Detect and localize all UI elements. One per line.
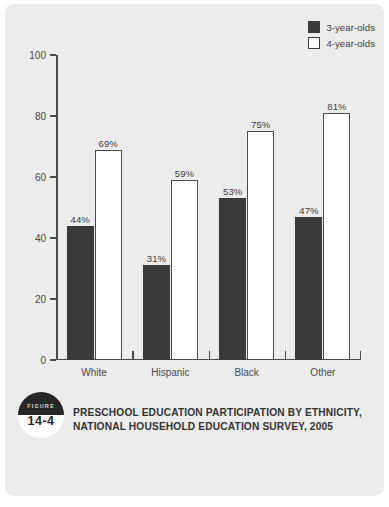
badge-figure-word: FIGURE — [18, 403, 64, 409]
caption-line-1: Preschool Education Participation by Eth… — [73, 406, 362, 420]
x-axis-tick — [209, 351, 211, 360]
caption-line-2: National Household Education Survey, 200… — [73, 420, 362, 434]
x-axis-category-label: White — [81, 367, 107, 378]
y-axis-tick — [50, 54, 56, 56]
figure-number-badge: FIGURE 14-4 — [18, 392, 64, 438]
y-axis-tick-label: 0 — [40, 355, 46, 366]
y-axis-tick — [50, 298, 56, 300]
bar-value-label: 81% — [327, 101, 346, 112]
y-axis-tick — [50, 359, 56, 361]
y-axis-tick-label: 100 — [29, 50, 46, 61]
x-axis-category-label: Hispanic — [151, 367, 189, 378]
bar[interactable]: 69% — [95, 150, 122, 360]
x-axis-tick — [360, 351, 362, 360]
x-axis-tick — [132, 351, 134, 360]
dark-square-icon — [308, 21, 320, 33]
legend-item-4-year-olds: 4-year-olds — [308, 36, 375, 50]
bar[interactable]: 53% — [219, 198, 246, 360]
legend-item-3-year-olds: 3-year-olds — [308, 20, 375, 34]
y-axis-tick — [50, 237, 56, 239]
bar-value-label: 44% — [71, 214, 90, 225]
bar[interactable]: 31% — [143, 265, 170, 360]
y-axis-tick-label: 80 — [35, 111, 46, 122]
x-axis-category-label: Other — [310, 367, 335, 378]
bar-value-label: 59% — [175, 168, 194, 179]
chart-legend: 3-year-olds 4-year-olds — [308, 20, 375, 50]
bar-chart: 020406080100 44%69%White31%59%Hispanic53… — [18, 50, 368, 370]
bar-group: 47%81%Other — [295, 55, 350, 360]
caption-text: Preschool Education Participation by Eth… — [73, 406, 362, 435]
bar[interactable]: 75% — [247, 131, 274, 360]
y-axis-tick-label: 60 — [35, 172, 46, 183]
bar-value-label: 75% — [251, 119, 270, 130]
y-axis-tick — [50, 115, 56, 117]
y-axis-line — [56, 55, 58, 360]
bar-value-label: 53% — [223, 186, 242, 197]
bar[interactable]: 44% — [67, 226, 94, 360]
bar-value-label: 69% — [99, 138, 118, 149]
white-square-icon — [308, 37, 320, 49]
bar-group: 31%59%Hispanic — [143, 55, 198, 360]
bar-group: 44%69%White — [67, 55, 122, 360]
y-axis-tick-label: 40 — [35, 233, 46, 244]
bar-value-label: 31% — [147, 253, 166, 264]
bar-value-label: 47% — [299, 205, 318, 216]
badge-figure-number: 14-4 — [18, 414, 64, 428]
y-axis-tick — [50, 176, 56, 178]
figure-caption: FIGURE 14-4 Preschool Education Particip… — [18, 392, 370, 438]
legend-label-4-year-olds: 4-year-olds — [326, 38, 375, 49]
bar[interactable]: 81% — [323, 113, 350, 360]
legend-label-3-year-olds: 3-year-olds — [326, 22, 375, 33]
y-axis-tick-label: 20 — [35, 294, 46, 305]
x-axis-category-label: Black — [234, 367, 258, 378]
bar[interactable]: 59% — [171, 180, 198, 360]
plot-area: 020406080100 44%69%White31%59%Hispanic53… — [56, 55, 361, 360]
bar-group: 53%75%Black — [219, 55, 274, 360]
figure-page: 3-year-olds 4-year-olds 020406080100 44%… — [0, 0, 389, 507]
bar[interactable]: 47% — [295, 217, 322, 360]
x-axis-tick — [285, 351, 287, 360]
